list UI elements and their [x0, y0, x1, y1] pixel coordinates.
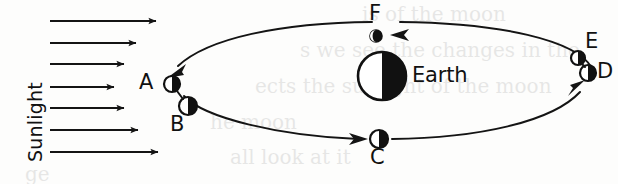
moon-f: [370, 30, 382, 42]
moon-phase-diagram: is of the moon s we see the changes in t…: [0, 0, 618, 184]
orbit-arc-top-right: [400, 22, 592, 68]
diagram-canvas: [0, 0, 618, 184]
arrowhead-toward-D: [568, 80, 585, 96]
moon-e-label: E: [585, 31, 598, 52]
moon-a: [164, 76, 180, 92]
connector-a-b: [177, 91, 183, 99]
moon-a-label: A: [139, 72, 153, 93]
sunlight-label: Sunlight: [26, 82, 45, 162]
orbit-arc-bottom-left: [184, 96, 358, 139]
moon-d-label: D: [597, 61, 613, 82]
moon-e: [571, 51, 585, 65]
moon-c-label: C: [370, 147, 385, 168]
arrowhead-toward-F: [390, 29, 409, 41]
earth-dark-half: [382, 52, 406, 100]
earth-glyph: [358, 52, 406, 100]
moon-d: [580, 65, 596, 81]
moon-b-label: B: [170, 114, 184, 135]
orbit-arc-bottom-right: [392, 92, 580, 139]
orbit-arc-top-left: [178, 22, 372, 66]
moon-f-label: F: [369, 3, 381, 24]
earth-label: Earth: [412, 65, 467, 86]
